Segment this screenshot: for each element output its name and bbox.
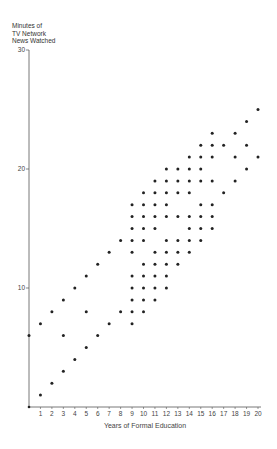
x-tick-label: 18 (231, 410, 239, 417)
data-point (199, 168, 202, 171)
data-point (165, 203, 168, 206)
data-point (131, 287, 134, 290)
data-point (28, 334, 31, 337)
data-point (85, 310, 88, 313)
data-point (153, 191, 156, 194)
data-point (142, 263, 145, 266)
data-point (176, 239, 179, 242)
data-point (199, 203, 202, 206)
data-point (176, 215, 179, 218)
data-point (222, 144, 225, 147)
data-point (108, 322, 111, 325)
data-point (50, 382, 53, 385)
x-tick-label: 1 (39, 410, 43, 417)
data-point (153, 251, 156, 254)
data-point (39, 322, 42, 325)
data-point (234, 156, 237, 159)
data-point (153, 263, 156, 266)
y-tick-label: 10 (18, 284, 26, 291)
x-tick-label: 17 (220, 410, 228, 417)
data-point (165, 168, 168, 171)
x-tick-label: 9 (130, 410, 134, 417)
data-point (245, 120, 248, 123)
x-tick-label: 10 (140, 410, 148, 417)
data-point (211, 203, 214, 206)
data-point (131, 239, 134, 242)
data-point (257, 156, 260, 159)
data-point (176, 251, 179, 254)
data-point (96, 334, 99, 337)
data-point (188, 156, 191, 159)
x-tick-label: 7 (107, 410, 111, 417)
data-point (142, 275, 145, 278)
data-point (85, 346, 88, 349)
data-point (142, 287, 145, 290)
data-point (188, 191, 191, 194)
x-tick-label: 8 (119, 410, 123, 417)
x-tick-label: 12 (163, 410, 171, 417)
data-point (211, 156, 214, 159)
y-axis-label-line-3: News Watched (12, 37, 55, 45)
data-point (165, 275, 168, 278)
data-point (199, 227, 202, 230)
data-point (119, 310, 122, 313)
data-point (62, 370, 65, 373)
data-point (96, 263, 99, 266)
data-points (28, 108, 260, 397)
x-tick-label: 11 (152, 410, 159, 417)
data-point (153, 215, 156, 218)
data-point (257, 108, 260, 111)
data-point (222, 191, 225, 194)
x-tick-label: 19 (243, 410, 251, 417)
data-point (39, 394, 42, 397)
data-point (199, 156, 202, 159)
data-point (165, 191, 168, 194)
x-tick-label: 15 (197, 410, 205, 417)
x-tick-label: 3 (62, 410, 66, 417)
x-tick-label: 4 (73, 410, 77, 417)
data-point (234, 179, 237, 182)
data-point (131, 215, 134, 218)
data-point (176, 179, 179, 182)
data-point (131, 203, 134, 206)
data-point (73, 358, 76, 361)
data-point (165, 251, 168, 254)
data-point (119, 239, 122, 242)
data-point (142, 215, 145, 218)
x-tick-label: 5 (84, 410, 88, 417)
data-point (176, 168, 179, 171)
x-tick-label: 6 (96, 410, 100, 417)
x-tick-label: 20 (254, 410, 262, 417)
data-point (245, 168, 248, 171)
data-point (142, 203, 145, 206)
x-tick-label: 2 (50, 410, 54, 417)
data-point (176, 191, 179, 194)
data-point (153, 287, 156, 290)
y-axis-label-line-1: Minutes of (12, 22, 55, 30)
data-point (108, 251, 111, 254)
data-point (199, 179, 202, 182)
data-point (165, 215, 168, 218)
y-axis-label-line-2: TV Network (12, 30, 55, 38)
x-tick-label: 13 (174, 410, 182, 417)
data-point (62, 334, 65, 337)
scatter-chart: Minutes of TV Network News Watched 10203… (0, 0, 277, 449)
data-point (142, 310, 145, 313)
y-tick-label: 30 (18, 46, 26, 53)
x-axis-label: Years of Formal Education (104, 422, 186, 429)
data-point (188, 215, 191, 218)
y-tick-label: 20 (18, 165, 26, 172)
data-point (211, 227, 214, 230)
data-point (153, 275, 156, 278)
data-point (153, 227, 156, 230)
x-tick-label: 16 (209, 410, 217, 417)
data-point (142, 239, 145, 242)
data-point (199, 144, 202, 147)
data-point (165, 179, 168, 182)
data-point (188, 251, 191, 254)
data-point (188, 239, 191, 242)
data-point (165, 263, 168, 266)
data-point (131, 298, 134, 301)
data-point (142, 298, 145, 301)
data-point (153, 298, 156, 301)
